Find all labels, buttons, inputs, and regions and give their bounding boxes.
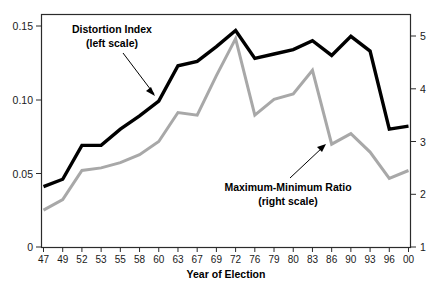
- annotation-maximum-minimum-ratio-line2: (right scale): [258, 195, 318, 207]
- x-tick-label-76: 76: [249, 254, 261, 265]
- chart-figure: 0.15 0.10 0.05 0 5 4 3 2 1 4749525355586…: [0, 0, 448, 299]
- x-tick-label-53: 53: [96, 254, 108, 265]
- left-axis-ticks: [36, 26, 42, 247]
- x-tick-label-00: 00: [403, 254, 415, 265]
- x-tick-label-86: 86: [326, 254, 338, 265]
- x-tick-label-90: 90: [345, 254, 357, 265]
- plot-frame: [42, 15, 411, 248]
- series-line-distortion-index: [44, 30, 409, 186]
- x-tick-label-58: 58: [134, 254, 146, 265]
- right-axis-ticks: [411, 36, 417, 247]
- left-axis-tick-labels: 0.15 0.10 0.05 0: [13, 20, 34, 253]
- annotation-distortion-index-line2: (left scale): [86, 37, 138, 49]
- annotation-distortion-index-line1: Distortion Index: [72, 23, 152, 35]
- dual-axis-line-chart: 0.15 0.10 0.05 0 5 4 3 2 1 4749525355586…: [0, 0, 448, 299]
- right-axis-tick-labels: 5 4 3 2 1: [420, 30, 426, 253]
- x-tick-label-83: 83: [307, 254, 319, 265]
- right-tick-label-5: 5: [420, 30, 426, 42]
- x-tick-label-69: 69: [211, 254, 223, 265]
- right-tick-label-3: 3: [420, 136, 426, 148]
- annotation-distortion-index: Distortion Index (left scale): [72, 23, 155, 96]
- annotation-maximum-minimum-ratio: Maximum-Minimum Ratio (right scale): [224, 144, 351, 207]
- x-tick-label-55: 55: [115, 254, 127, 265]
- arrow-head-icon: [146, 87, 155, 96]
- x-tick-label-52: 52: [76, 254, 88, 265]
- x-tick-label-63: 63: [172, 254, 184, 265]
- x-axis-tick-labels: 4749525355586063676972767980838690939600: [38, 254, 415, 265]
- annotation-distortion-index-leader: [123, 53, 154, 94]
- x-tick-label-80: 80: [288, 254, 300, 265]
- x-axis-title: Year of Election: [187, 268, 266, 280]
- x-tick-label-93: 93: [365, 254, 377, 265]
- left-tick-label-3: 0.15: [13, 20, 34, 32]
- annotation-maximum-minimum-ratio-leader: [290, 147, 323, 178]
- left-tick-label-1: 0.05: [13, 168, 34, 180]
- annotation-maximum-minimum-ratio-line1: Maximum-Minimum Ratio: [224, 181, 351, 193]
- x-tick-label-67: 67: [192, 254, 204, 265]
- x-tick-label-60: 60: [153, 254, 165, 265]
- left-tick-label-0: 0: [27, 241, 33, 253]
- truncated-caption-artifact: [18, 292, 258, 299]
- x-tick-label-49: 49: [57, 254, 69, 265]
- x-tick-label-96: 96: [384, 254, 396, 265]
- x-tick-label-72: 72: [230, 254, 242, 265]
- right-tick-label-2: 2: [420, 188, 426, 200]
- right-tick-label-4: 4: [420, 83, 426, 95]
- x-tick-label-47: 47: [38, 254, 50, 265]
- left-tick-label-2: 0.10: [13, 94, 34, 106]
- x-tick-label-79: 79: [268, 254, 280, 265]
- right-tick-label-1: 1: [420, 241, 426, 253]
